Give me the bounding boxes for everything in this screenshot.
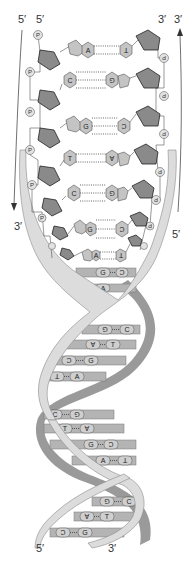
svg-text:A: A bbox=[101, 457, 106, 464]
svg-text:P: P bbox=[28, 69, 32, 75]
phosphate-icon bbox=[141, 243, 148, 250]
phosphate-icon: P bbox=[38, 214, 46, 222]
ladder-pair: G C bbox=[60, 114, 136, 134]
helix-pair: G C bbox=[82, 325, 140, 334]
svg-text:C: C bbox=[66, 357, 71, 364]
svg-text:G: G bbox=[88, 441, 93, 448]
svg-text:C: C bbox=[119, 226, 124, 233]
svg-text:P: P bbox=[158, 169, 162, 175]
label-outer-left-bottom: 3′ bbox=[14, 220, 22, 232]
helix-pair: A T bbox=[74, 512, 136, 521]
phosphate-icon: P bbox=[160, 54, 169, 63]
phosphate-icon: P bbox=[160, 92, 169, 101]
svg-text:C: C bbox=[60, 529, 65, 536]
label-outer-right-bottom: 5′ bbox=[172, 228, 180, 240]
arrow-down-icon bbox=[11, 203, 17, 211]
svg-text:P: P bbox=[28, 109, 32, 115]
svg-text:A: A bbox=[94, 252, 99, 259]
svg-text:T: T bbox=[54, 373, 59, 380]
label-outer-right-top: 3′ bbox=[174, 13, 182, 25]
svg-text:C: C bbox=[108, 441, 113, 448]
label-helix-bottom-right: 3′ bbox=[108, 542, 116, 554]
svg-text:A: A bbox=[75, 373, 80, 380]
phosphate-icon: P bbox=[26, 146, 35, 155]
svg-text:A: A bbox=[90, 341, 95, 348]
helix-pair: C G bbox=[50, 356, 126, 365]
svg-text:T: T bbox=[118, 252, 123, 259]
svg-text:A: A bbox=[84, 425, 89, 432]
label-outer-left-top: 5′ bbox=[18, 13, 26, 25]
svg-text:G: G bbox=[82, 529, 87, 536]
phosphate-icon: P bbox=[26, 108, 35, 117]
svg-text:C: C bbox=[121, 123, 126, 130]
phosphate-icon: P bbox=[156, 168, 165, 177]
svg-text:P: P bbox=[30, 182, 34, 188]
svg-text:P: P bbox=[40, 215, 44, 221]
svg-text:P: P bbox=[36, 32, 40, 38]
phosphate-icon: P bbox=[34, 31, 43, 40]
svg-text:G: G bbox=[87, 226, 92, 233]
svg-text:P: P bbox=[162, 131, 166, 137]
ladder-pair: A T bbox=[74, 244, 130, 262]
ladder-pair: C G bbox=[62, 185, 132, 201]
helix-pair: G C bbox=[76, 268, 136, 277]
svg-text:P: P bbox=[162, 93, 166, 99]
arrow-up-icon bbox=[177, 28, 183, 36]
svg-text:G: G bbox=[83, 123, 88, 130]
svg-text:G: G bbox=[88, 357, 93, 364]
svg-text:P: P bbox=[162, 55, 166, 61]
svg-text:G: G bbox=[100, 269, 105, 276]
svg-text:T: T bbox=[68, 155, 73, 162]
ladder-pair: C G bbox=[60, 72, 136, 90]
label-inner-left-top: 5′ bbox=[36, 13, 44, 25]
svg-text:A: A bbox=[86, 47, 91, 54]
svg-text:A: A bbox=[84, 513, 89, 520]
svg-text:C: C bbox=[124, 326, 129, 333]
dna-diagram: G C A G C A T C bbox=[0, 0, 196, 567]
svg-text:P: P bbox=[154, 197, 158, 203]
svg-text:P: P bbox=[28, 147, 32, 153]
svg-text:T: T bbox=[111, 341, 116, 348]
svg-text:G: G bbox=[109, 77, 114, 84]
ladder-pair: G C bbox=[68, 220, 132, 238]
phosphate-icon: P bbox=[152, 196, 161, 205]
svg-text:G: G bbox=[104, 498, 109, 505]
ladder-pair: T A bbox=[60, 150, 134, 166]
svg-text:T: T bbox=[122, 457, 127, 464]
phosphate-icon: P bbox=[28, 181, 37, 190]
svg-text:A: A bbox=[109, 155, 114, 162]
phosphate-icon: P bbox=[160, 130, 169, 139]
phosphate-icon: P bbox=[146, 222, 154, 230]
svg-text:G: G bbox=[109, 190, 114, 197]
svg-text:C: C bbox=[71, 190, 76, 197]
helix-pair: G C bbox=[92, 497, 138, 506]
svg-text:T: T bbox=[105, 513, 110, 520]
svg-text:C: C bbox=[67, 77, 72, 84]
phosphate-icon bbox=[49, 243, 56, 250]
right-direction-arrow bbox=[177, 28, 183, 212]
label-helix-bottom-left: 5′ bbox=[36, 542, 44, 554]
label-inner-right-top: 3′ bbox=[158, 13, 166, 25]
helix-pair: T A bbox=[46, 372, 106, 381]
svg-text:C: C bbox=[119, 269, 124, 276]
svg-text:C: C bbox=[126, 498, 131, 505]
svg-text:G: G bbox=[74, 411, 79, 418]
svg-text:G: G bbox=[102, 326, 107, 333]
phosphate-icon: P bbox=[26, 68, 35, 77]
svg-text:T: T bbox=[63, 425, 68, 432]
sugars-right bbox=[128, 30, 160, 246]
svg-text:P: P bbox=[148, 223, 152, 229]
svg-text:T: T bbox=[123, 47, 128, 54]
ladder-pair: A T bbox=[60, 40, 138, 58]
helix-pair: A T bbox=[64, 340, 136, 349]
dna-ladder: P P P P P P P P P P P P bbox=[26, 30, 169, 262]
